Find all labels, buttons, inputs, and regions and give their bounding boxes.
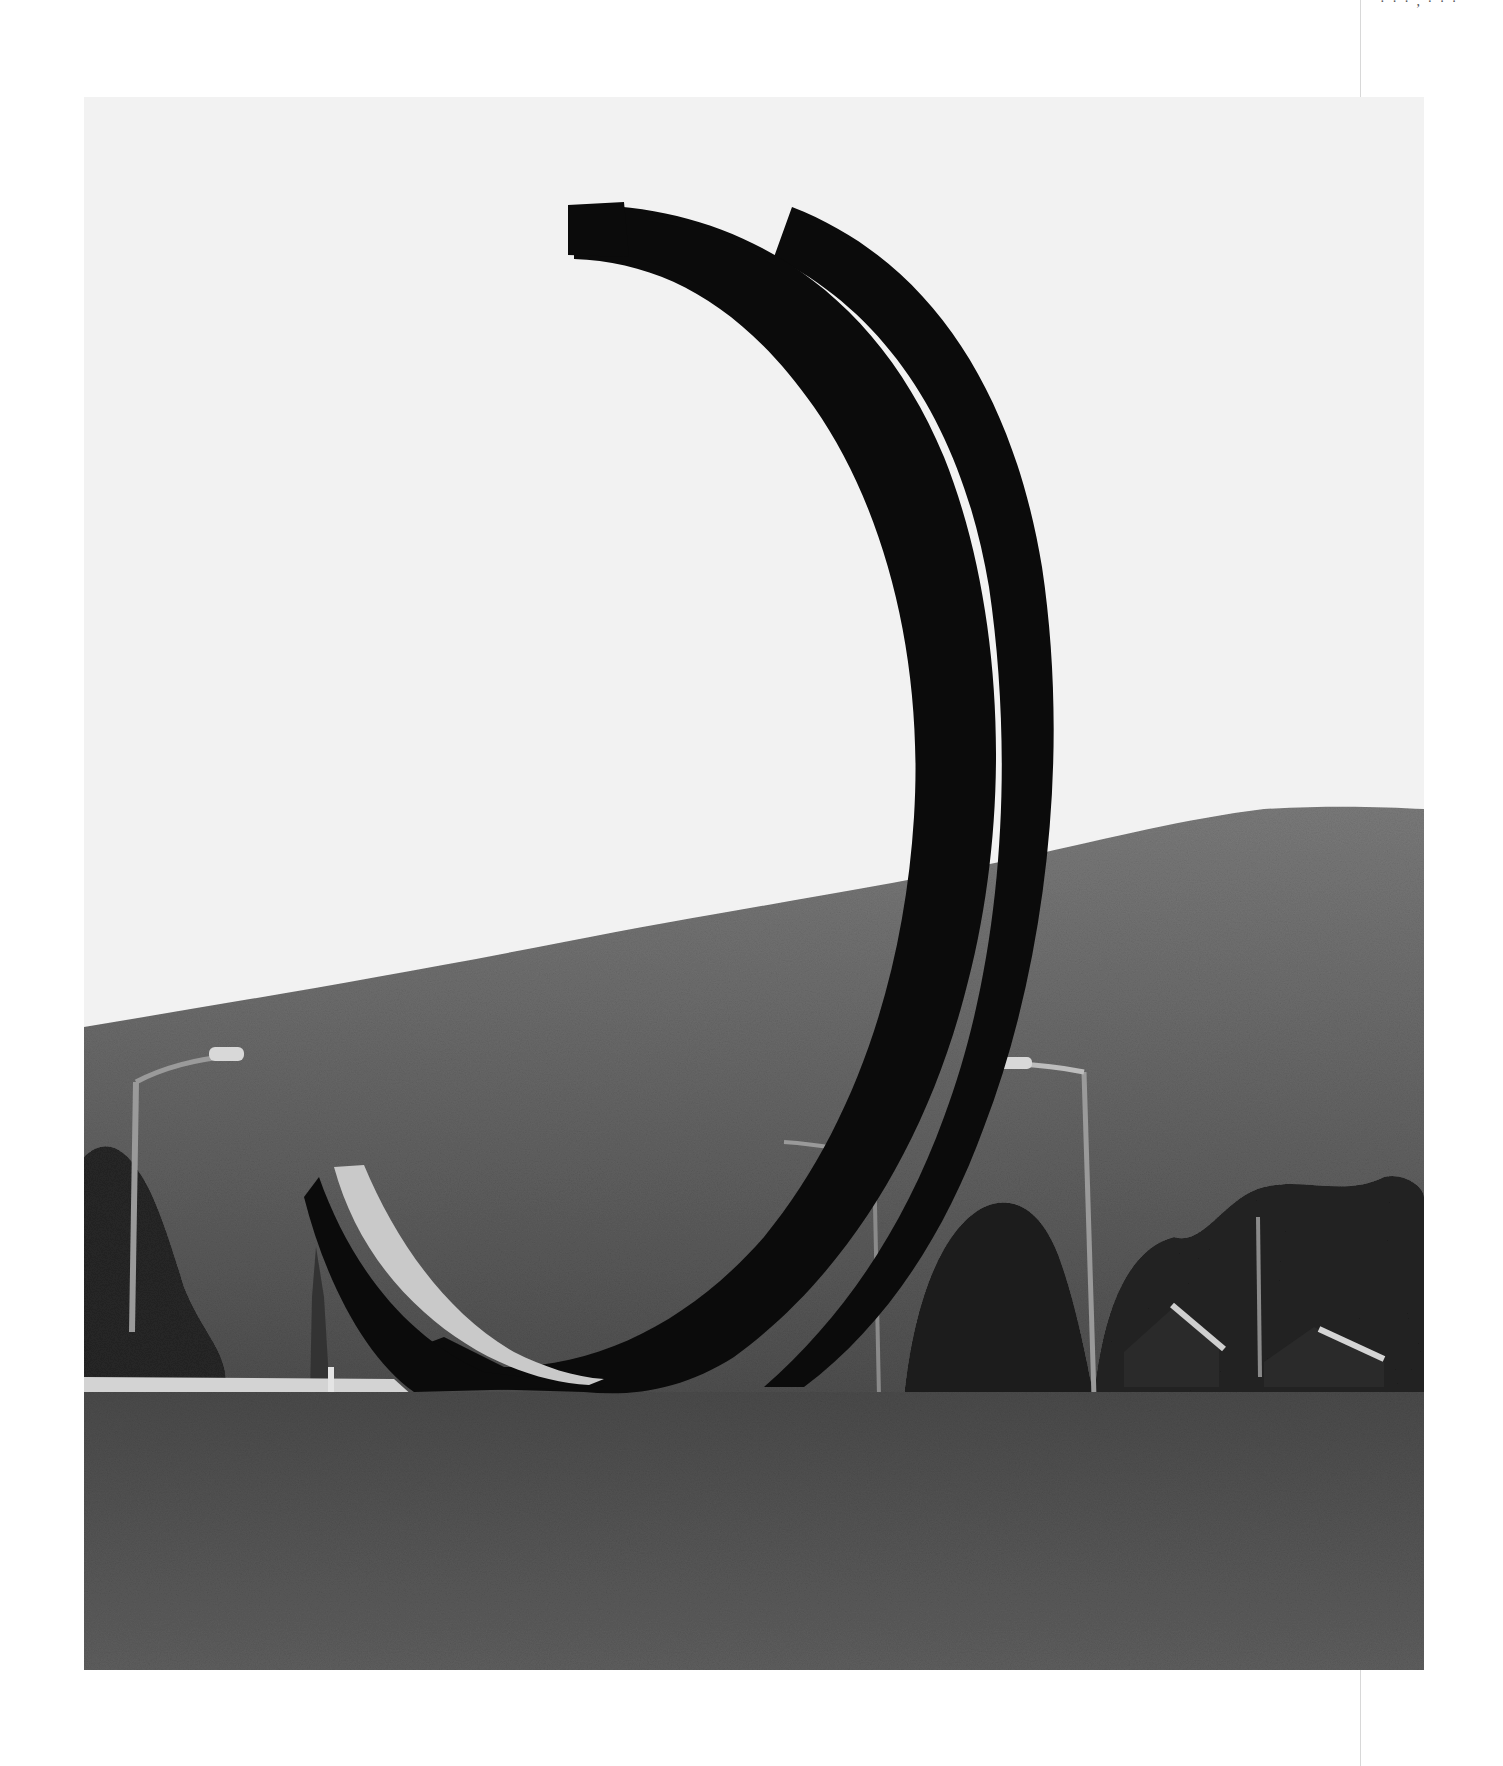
photo-canvas [84,97,1424,1670]
grass-field [84,1392,1424,1670]
page-header-mark: · · · , · · · [1380,0,1458,10]
antenna-pole [1258,1217,1260,1377]
photograph [84,97,1424,1670]
front-arc-top-end [568,202,629,257]
